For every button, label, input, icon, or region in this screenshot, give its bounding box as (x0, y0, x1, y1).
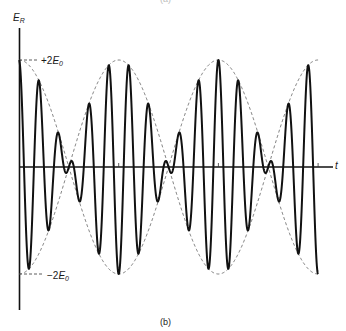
plus-2e0-label: +2E0 (41, 56, 63, 67)
beat-waveform-figure: (a) ER +2E0 −2E0 t (b) (0, 0, 346, 331)
envelope-upper-dashed (19, 60, 318, 167)
y-axis-label: ER (13, 13, 25, 24)
resultant-waveform (19, 60, 318, 274)
x-axis-label: t (335, 161, 338, 171)
envelope-lower-dashed (19, 167, 318, 274)
minus-2e0-label: −2E0 (47, 271, 69, 282)
figure-caption: (b) (160, 318, 171, 327)
